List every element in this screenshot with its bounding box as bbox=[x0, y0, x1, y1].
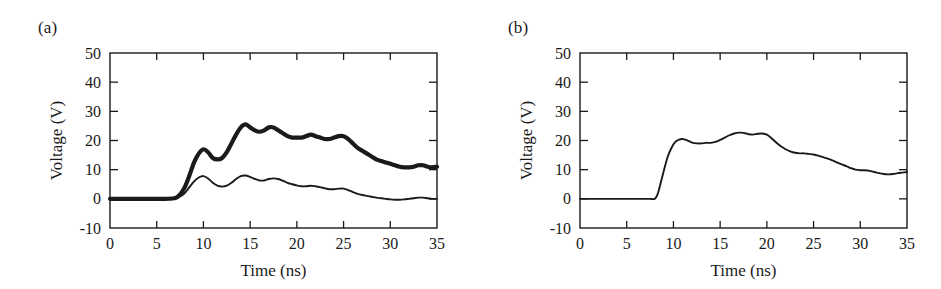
plot-frame bbox=[580, 53, 907, 228]
y-tick-label: 30 bbox=[555, 103, 571, 120]
x-tick-label: 5 bbox=[623, 235, 631, 252]
y-tick-label: 10 bbox=[555, 161, 571, 178]
trace-lower-trace-thin bbox=[110, 175, 437, 199]
x-axis-title: Time (ns) bbox=[241, 261, 307, 280]
x-tick-label: 35 bbox=[429, 235, 445, 252]
x-tick-label: 35 bbox=[899, 235, 915, 252]
x-tick-label: 10 bbox=[195, 235, 211, 252]
x-tick-label: 30 bbox=[852, 235, 868, 252]
x-tick-label: 20 bbox=[759, 235, 775, 252]
x-tick-label: 25 bbox=[806, 235, 822, 252]
y-tick-label: 20 bbox=[555, 132, 571, 149]
panel-a: (a) 05101520253035-1001020304050Time (ns… bbox=[0, 0, 470, 289]
x-tick-label: 0 bbox=[576, 235, 584, 252]
x-tick-label: 30 bbox=[382, 235, 398, 252]
plot-a: 05101520253035-1001020304050Time (ns)Vol… bbox=[0, 0, 470, 289]
trace-main-trace bbox=[580, 133, 907, 200]
x-tick-label: 0 bbox=[106, 235, 114, 252]
x-tick-label: 20 bbox=[289, 235, 305, 252]
y-tick-label: 0 bbox=[93, 190, 101, 207]
x-tick-label: 10 bbox=[665, 235, 681, 252]
y-tick-label: -10 bbox=[80, 220, 101, 237]
y-tick-label: -10 bbox=[550, 220, 571, 237]
panel-b: (b) 05101520253035-1001020304050Time (ns… bbox=[470, 0, 940, 289]
y-axis-title: Voltage (V) bbox=[47, 101, 66, 180]
x-tick-label: 25 bbox=[336, 235, 352, 252]
x-tick-label: 5 bbox=[153, 235, 161, 252]
plot-b: 05101520253035-1001020304050Time (ns)Vol… bbox=[470, 0, 940, 289]
y-tick-label: 30 bbox=[85, 103, 101, 120]
y-tick-label: 50 bbox=[85, 45, 101, 62]
trace-upper-trace-thick bbox=[110, 124, 437, 198]
figure-container: (a) 05101520253035-1001020304050Time (ns… bbox=[0, 0, 941, 289]
y-tick-label: 40 bbox=[555, 74, 571, 91]
y-tick-label: 40 bbox=[85, 74, 101, 91]
x-tick-label: 15 bbox=[242, 235, 258, 252]
y-tick-label: 50 bbox=[555, 45, 571, 62]
x-axis-title: Time (ns) bbox=[711, 261, 777, 280]
y-tick-label: 0 bbox=[563, 190, 571, 207]
y-tick-label: 20 bbox=[85, 132, 101, 149]
y-tick-label: 10 bbox=[85, 161, 101, 178]
y-axis-title: Voltage (V) bbox=[517, 101, 536, 180]
x-tick-label: 15 bbox=[712, 235, 728, 252]
plot-frame bbox=[110, 53, 437, 228]
